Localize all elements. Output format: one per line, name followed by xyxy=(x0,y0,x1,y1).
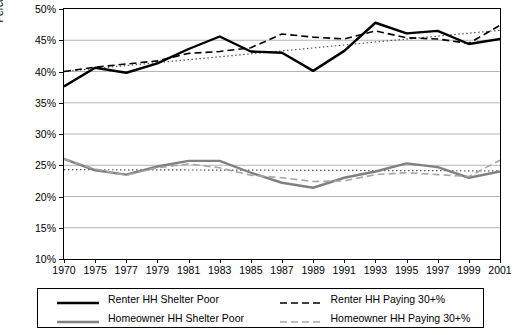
chart-legend: Renter HH Shelter Poor Renter HH Paying … xyxy=(37,288,484,328)
legend-item-renter-shelter-poor: Renter HH Shelter Poor xyxy=(38,293,261,305)
chart-container: Percent of Households 10%15%20%25%30%35%… xyxy=(0,0,521,335)
legend-item-homeowner-paying-30: Homeowner HH Paying 30+% xyxy=(261,312,484,324)
trendline-renter-trend xyxy=(64,30,500,71)
legend-item-renter-paying-30: Renter HH Paying 30+% xyxy=(261,293,484,305)
legend-row: Homeowner HH Shelter Poor Homeowner HH P… xyxy=(38,308,483,327)
legend-label-homeowner-shelter-poor: Homeowner HH Shelter Poor xyxy=(108,312,244,324)
x-axis-tick: 1979 xyxy=(142,264,172,276)
x-tick-mark xyxy=(220,259,221,263)
series-line-0 xyxy=(64,23,500,87)
x-axis-tick: 1970 xyxy=(49,264,79,276)
x-tick-mark xyxy=(282,259,283,263)
legend-swatch-homeowner-paying-30 xyxy=(279,313,323,323)
x-axis-tick: 1977 xyxy=(111,264,141,276)
x-tick-mark xyxy=(344,259,345,263)
x-tick-mark xyxy=(189,259,190,263)
x-axis-tick: 1989 xyxy=(298,264,328,276)
legend-label-renter-paying-30: Renter HH Paying 30+% xyxy=(331,293,446,305)
series-line-2 xyxy=(64,159,500,188)
legend-swatch-homeowner-shelter-poor xyxy=(56,313,100,323)
x-tick-mark xyxy=(95,259,96,263)
y-axis-tick: 50% xyxy=(20,3,56,15)
x-tick-mark xyxy=(313,259,314,263)
x-axis-tick: 1991 xyxy=(329,264,359,276)
x-tick-mark xyxy=(251,259,252,263)
x-tick-mark xyxy=(469,259,470,263)
y-axis-tick: 35% xyxy=(20,97,56,109)
y-axis-title: Percent of Households xyxy=(0,0,5,52)
x-tick-mark xyxy=(438,259,439,263)
plot-area xyxy=(63,8,501,260)
y-axis-tick: 20% xyxy=(20,191,56,203)
x-axis-tick: 2001 xyxy=(485,264,515,276)
legend-item-homeowner-shelter-poor: Homeowner HH Shelter Poor xyxy=(38,312,261,324)
x-axis-tick: 1987 xyxy=(267,264,297,276)
x-axis-tick: 1993 xyxy=(360,264,390,276)
y-axis-tick: 15% xyxy=(20,222,56,234)
chart-svg xyxy=(64,9,500,259)
x-axis-tick: 1995 xyxy=(392,264,422,276)
x-tick-mark xyxy=(375,259,376,263)
x-axis-tick: 1983 xyxy=(205,264,235,276)
legend-swatch-renter-shelter-poor xyxy=(56,294,100,304)
legend-label-homeowner-paying-30: Homeowner HH Paying 30+% xyxy=(331,312,471,324)
x-tick-mark xyxy=(500,259,501,263)
x-axis-tick: 1997 xyxy=(423,264,453,276)
x-axis-tick: 1975 xyxy=(80,264,110,276)
y-axis-tick: 25% xyxy=(20,159,56,171)
x-tick-mark xyxy=(126,259,127,263)
y-axis-tick: 40% xyxy=(20,66,56,78)
y-axis-tick: 30% xyxy=(20,128,56,140)
x-tick-mark xyxy=(157,259,158,263)
x-tick-mark xyxy=(407,259,408,263)
plot-svg-wrapper xyxy=(64,9,500,259)
x-axis-tick: 1981 xyxy=(174,264,204,276)
legend-row: Renter HH Shelter Poor Renter HH Paying … xyxy=(38,289,483,308)
x-axis-tick: 1985 xyxy=(236,264,266,276)
x-axis-tick: 1999 xyxy=(454,264,484,276)
legend-swatch-renter-paying-30 xyxy=(279,294,323,304)
legend-label-renter-shelter-poor: Renter HH Shelter Poor xyxy=(108,293,219,305)
y-axis-tick: 45% xyxy=(20,34,56,46)
trendline-homeowner-trend xyxy=(64,170,500,171)
x-tick-mark xyxy=(64,259,65,263)
